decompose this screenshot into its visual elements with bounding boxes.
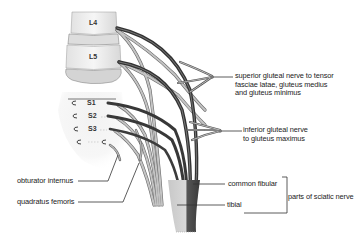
label-superior-gluteal-nerve: superior gluteal nerve to tensor fasciae…	[235, 72, 334, 98]
label-obturator-internus: obturator internus	[17, 177, 73, 186]
label-line: and gluteus minimus	[235, 89, 334, 98]
disc-l4-l5	[68, 34, 119, 45]
label-l5: L5	[89, 53, 97, 60]
label-parts-of-sciatic-nerve: parts of sciatic nerve	[288, 193, 354, 202]
label-s3: S3	[88, 125, 97, 132]
label-s2: S2	[88, 112, 97, 119]
label-line: to gluteus maximus	[243, 135, 308, 144]
label-tibial: tibial	[227, 201, 242, 210]
disc-l5-s1	[66, 69, 122, 84]
label-common-fibular: common fibular	[228, 180, 277, 189]
label-inferior-gluteal-nerve: inferior gluteal nerve to gluteus maximu…	[243, 126, 308, 143]
spine	[58, 12, 125, 169]
label-quadratus-femoris: quadratus femoris	[17, 198, 74, 207]
sacral-plexus-diagram	[0, 0, 360, 247]
label-s1: S1	[87, 99, 96, 106]
label-l4: L4	[89, 19, 97, 26]
sciatic-trunk	[168, 180, 200, 232]
